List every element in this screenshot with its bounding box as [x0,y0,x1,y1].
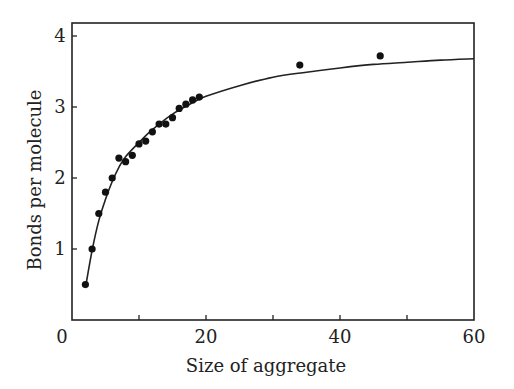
data-point [196,93,203,100]
x-tick-label: 0 [56,326,67,347]
y-tick-label: 1 [54,238,65,259]
data-point [296,62,303,69]
data-point [176,105,183,112]
data-point [82,281,89,288]
x-tick-label: 60 [463,326,486,347]
data-point [142,137,149,144]
data-point [135,140,142,147]
x-tick-label: 20 [195,326,218,347]
x-axis-title: Size of aggregate [186,355,346,376]
data-point [162,120,169,127]
fitted-curve [85,59,474,288]
data-point [169,114,176,121]
data-point [149,128,156,135]
y-axis-ticks: 1234 [54,25,77,259]
data-point [189,96,196,103]
data-point [377,52,384,59]
data-point [129,152,136,159]
data-point [156,120,163,127]
data-point [115,155,122,162]
plot-frame [72,23,474,320]
data-point [109,174,116,181]
y-axis-title: Bonds per molecule [24,89,45,270]
data-point [122,158,129,165]
data-point [95,210,102,217]
data-point [182,101,189,108]
data-point [89,245,96,252]
chart: 0204060 1234 Size of aggregate Bonds per… [0,0,514,389]
data-point [102,189,109,196]
x-tick-label: 40 [329,326,352,347]
y-tick-label: 2 [54,167,65,188]
y-tick-label: 4 [54,25,65,46]
y-tick-label: 3 [54,96,65,117]
